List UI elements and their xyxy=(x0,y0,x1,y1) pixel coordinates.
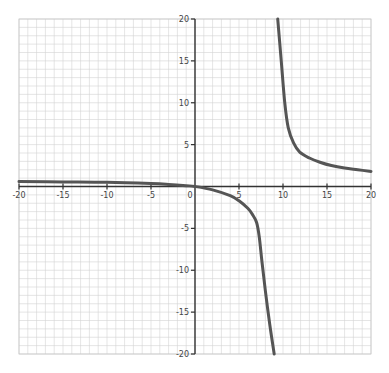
y-tick-label: -20 xyxy=(176,350,189,359)
y-tick-label: 20 xyxy=(179,15,189,24)
y-tick-label: -10 xyxy=(176,266,189,275)
x-tick-label: -10 xyxy=(100,191,113,200)
y-tick-label: -15 xyxy=(176,308,189,317)
x-tick-label: 10 xyxy=(278,191,288,200)
curve-left-branch xyxy=(19,181,274,354)
x-tick-label: 0 xyxy=(187,191,192,200)
y-tick-label: 5 xyxy=(184,141,189,150)
y-tick-label: -5 xyxy=(181,224,189,233)
x-tick-label: -20 xyxy=(12,191,25,200)
y-tick-label: 15 xyxy=(179,57,189,66)
chart: -20-15-10-505101520-20-15-10-55101520 xyxy=(0,0,389,373)
y-tick-label: 10 xyxy=(179,99,189,108)
x-tick-label: -5 xyxy=(147,191,155,200)
x-tick-label: 15 xyxy=(322,191,332,200)
x-tick-label: 20 xyxy=(366,191,376,200)
x-tick-label: -15 xyxy=(56,191,69,200)
